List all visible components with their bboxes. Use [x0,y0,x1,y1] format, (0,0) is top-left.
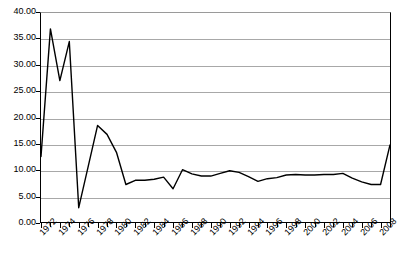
x-axis-tick-label: 2004 [340,217,361,238]
x-axis: 1972197419761978198019821984198619881990… [0,0,409,267]
x-axis-tick-label: 1984 [151,217,172,238]
x-axis-tick-label: 1976 [76,217,97,238]
x-axis-tick-label: 1972 [38,217,59,238]
x-axis-tick-label: 1978 [95,217,116,238]
x-axis-tick-label: 1974 [57,217,78,238]
x-axis-tick-label: 1982 [132,217,153,238]
x-axis-tick-label: 2000 [302,217,323,238]
x-axis-tick-label: 1988 [189,217,210,238]
x-axis-tick-label: 1998 [283,217,304,238]
x-axis-tick-label: 1994 [246,217,267,238]
x-axis-tick-label: 2008 [378,217,399,238]
line-chart: 0.005.0010.0015.0020.0025.0030.0035.0040… [0,0,409,267]
x-axis-tick-label: 1980 [113,217,134,238]
x-axis-tick-label: 1992 [227,217,248,238]
x-axis-tick-label: 2002 [321,217,342,238]
x-axis-tick-label: 1986 [170,217,191,238]
x-axis-tick-label: 2006 [359,217,380,238]
x-axis-tick-label: 1996 [264,217,285,238]
x-axis-tick-label: 1990 [208,217,229,238]
